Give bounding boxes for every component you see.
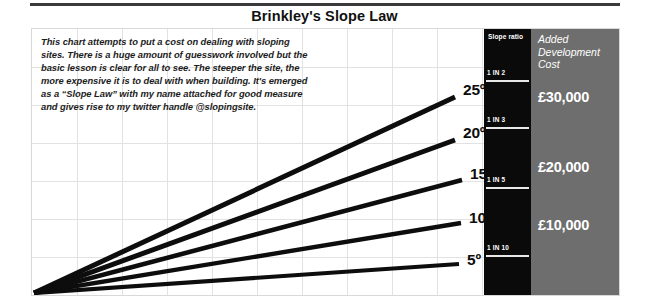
slope-ratio-column: Slope ratio 1 IN 21 IN 31 IN 51 IN 10 <box>484 29 531 296</box>
chart-description: This chart attempts to put a cost on dea… <box>41 35 309 114</box>
grid-line-horizontal <box>32 295 619 296</box>
angle-label: 20º <box>463 124 485 142</box>
slope-ratio-label: 1 IN 5 <box>487 176 505 183</box>
slope-ray <box>34 223 461 293</box>
angle-label: 25º <box>463 81 485 99</box>
slope-ratio-tick <box>486 255 529 257</box>
slope-ratio-label: 1 IN 2 <box>487 69 505 76</box>
cost-value: £20,000 <box>538 159 589 175</box>
slope-ray <box>34 180 462 293</box>
angle-label: 5º <box>467 251 481 269</box>
slope-ratio-tick <box>486 187 529 189</box>
cost-column-heading: Added Development Cost <box>538 33 616 71</box>
slope-ratio-tick <box>486 80 529 82</box>
slope-ratio-label: 1 IN 3 <box>487 116 505 123</box>
slope-ratio-tick <box>486 127 529 129</box>
chart-plot-area: 25º20º15º10º5º This chart attempts to pu… <box>31 28 620 296</box>
added-development-cost-column: Added Development Cost £30,000£20,000£10… <box>531 29 620 296</box>
cost-value: £30,000 <box>538 89 589 105</box>
page-title: Brinkley's Slope Law <box>0 8 649 24</box>
header-rule <box>30 3 620 6</box>
cost-value: £10,000 <box>538 217 589 233</box>
slope-ray <box>34 97 455 293</box>
slope-ratio-label: 1 IN 10 <box>487 244 509 251</box>
slope-ratio-heading: Slope ratio <box>488 33 523 40</box>
